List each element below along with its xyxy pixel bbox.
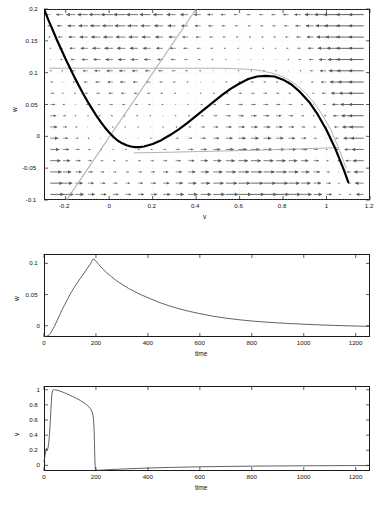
phase-xaxis-label: v — [203, 213, 206, 220]
xtick-label: 800 — [247, 474, 257, 480]
xtick-label: 0.6 — [234, 203, 243, 209]
ytick-label: -0.1 — [26, 197, 37, 203]
ytick-label: 0.05 — [26, 292, 38, 298]
xtick-label: 1200 — [349, 474, 363, 480]
phase-plane-canvas — [0, 0, 387, 232]
xtick-label: 800 — [247, 340, 257, 346]
ytick-label: 0 — [36, 323, 39, 329]
xtick-label: 1000 — [297, 474, 311, 480]
xtick-label: 400 — [143, 474, 153, 480]
xtick-label: 400 — [143, 340, 153, 346]
ytick-label: 0.6 — [29, 417, 38, 423]
xtick-label: 1 — [325, 203, 328, 209]
bot-xaxis-label: time — [195, 484, 207, 491]
v-time-series-canvas — [0, 378, 387, 509]
phase-plane-panel: -0.200.20.40.60.811.2-0.1-0.0500.050.10.… — [0, 0, 387, 232]
bot-yaxis-label: v — [13, 433, 20, 436]
xtick-label: 0 — [42, 340, 45, 346]
xtick-label: 0 — [107, 203, 110, 209]
xtick-label: 200 — [91, 340, 101, 346]
ytick-label: 0.05 — [26, 102, 38, 108]
ytick-label: 0.15 — [26, 38, 38, 44]
xtick-label: 1.2 — [365, 203, 374, 209]
w-time-series-canvas — [0, 240, 387, 368]
ytick-label: 0.1 — [29, 70, 38, 76]
mid-yaxis-label: w — [13, 296, 20, 301]
w-time-series-panel: 02004006008001000120000.050.1 time w — [0, 240, 387, 368]
phase-yaxis-label: w — [11, 107, 18, 112]
xtick-label: -0.2 — [59, 203, 70, 209]
ytick-label: 0 — [36, 133, 39, 139]
ytick-label: 0.2 — [29, 447, 38, 453]
xtick-label: 1000 — [297, 340, 311, 346]
ytick-label: 0 — [36, 462, 39, 468]
ytick-label: 0.2 — [29, 6, 38, 12]
ytick-label: 0.1 — [29, 260, 38, 266]
v-time-series-panel: 02004006008001000120000.20.40.60.81 time… — [0, 378, 387, 509]
xtick-label: 0.2 — [147, 203, 156, 209]
mid-xaxis-label: time — [195, 350, 207, 357]
figure-root: -0.200.20.40.60.811.2-0.1-0.0500.050.10.… — [0, 0, 387, 509]
xtick-label: 0.4 — [191, 203, 200, 209]
ytick-label: -0.05 — [22, 165, 36, 171]
xtick-label: 200 — [91, 474, 101, 480]
xtick-label: 600 — [195, 340, 205, 346]
xtick-label: 1200 — [349, 340, 363, 346]
xtick-label: 600 — [195, 474, 205, 480]
ytick-label: 1 — [36, 387, 39, 393]
ytick-label: 0.4 — [29, 432, 38, 438]
xtick-label: 0 — [42, 474, 45, 480]
xtick-label: 0.8 — [278, 203, 287, 209]
ytick-label: 0.8 — [29, 402, 38, 408]
